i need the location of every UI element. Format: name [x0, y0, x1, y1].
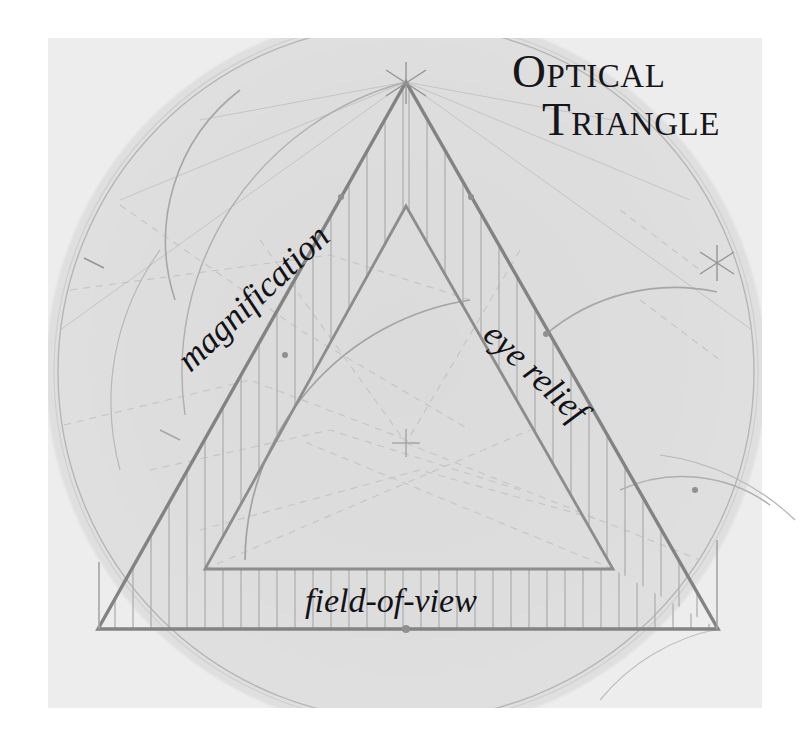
- figure-canvas: [0, 0, 811, 749]
- optical-triangle-figure: Optical Triangle magnification eye relie…: [0, 0, 811, 749]
- paper-grain-overlay: [48, 38, 762, 708]
